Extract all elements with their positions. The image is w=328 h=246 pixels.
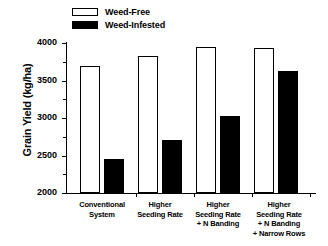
bar-weed-infested-higher-seeding-rate — [162, 140, 182, 193]
y-tick-minor-3250 — [63, 99, 66, 100]
x-axis-line — [66, 193, 316, 194]
bar-weed-infested-conventional-system — [104, 159, 124, 193]
y-axis-title: Grain Yield (kg/ha) — [21, 30, 33, 190]
x-label-line: + N Banding — [234, 219, 324, 229]
plot-area: 4000 3500 3000 2500 2000 — [66, 43, 316, 193]
x-tick-1 — [136, 193, 137, 197]
y-tick-label-4000: 4000 — [37, 37, 57, 47]
legend-label-weed-infested: Weed-Infested — [105, 20, 165, 30]
bar-weed-infested-narrow-rows — [278, 71, 298, 193]
chart-legend: Weed-Free Weed-Infested — [72, 6, 232, 32]
x-label-line: Higher — [234, 200, 324, 210]
x-label-line: + Narrow Rows — [234, 229, 324, 239]
y-tick-4000: 4000 — [62, 43, 66, 44]
bar-weed-infested-n-banding — [220, 116, 240, 193]
x-tick-2 — [194, 193, 195, 197]
y-tick-minor-2750 — [63, 137, 66, 138]
y-tick-2500: 2500 — [62, 156, 66, 157]
filled-rect-icon — [72, 21, 98, 29]
y-tick-3500: 3500 — [62, 81, 66, 82]
legend-item-weed-infested: Weed-Infested — [72, 19, 232, 30]
legend-item-weed-free: Weed-Free — [72, 6, 232, 17]
bar-weed-free-higher-seeding-rate — [138, 56, 158, 193]
x-label-line: Seeding Rate — [234, 210, 324, 220]
y-tick-3000: 3000 — [62, 118, 66, 119]
y-tick-minor-3750 — [63, 62, 66, 63]
y-axis-line — [66, 42, 67, 194]
open-rect-icon — [72, 8, 98, 16]
y-tick-label-2000: 2000 — [37, 187, 57, 197]
x-tick-3 — [252, 193, 253, 197]
bar-weed-free-narrow-rows — [254, 48, 274, 194]
bar-weed-free-n-banding — [196, 47, 216, 193]
y-tick-label-3500: 3500 — [37, 75, 57, 85]
x-tick-4 — [310, 193, 311, 197]
y-tick-label-3000: 3000 — [37, 112, 57, 122]
bar-weed-free-conventional-system — [80, 66, 100, 194]
y-tick-minor-2250 — [63, 174, 66, 175]
legend-label-weed-free: Weed-Free — [105, 7, 150, 17]
y-tick-label-2500: 2500 — [37, 150, 57, 160]
x-category-label-narrow-rows: Higher Seeding Rate + N Banding + Narrow… — [234, 200, 324, 238]
y-tick-2000: 2000 — [62, 193, 66, 194]
bar-chart: Weed-Free Weed-Infested Grain Yield (kg/… — [0, 0, 328, 246]
